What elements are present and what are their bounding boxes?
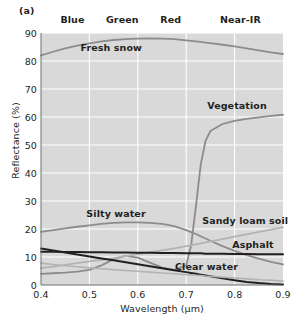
curve-label-silty-water: Silty water xyxy=(86,208,145,219)
curve-label-asphalt: Asphalt xyxy=(232,239,273,250)
curve-label-vegetation: Vegetation xyxy=(207,100,267,111)
spectral-reflectance-figure: (a) BlueGreenRedNear-IR 0102030405060708… xyxy=(0,0,296,323)
curve-label-sandy-loam-soil: Sandy loam soil xyxy=(202,215,288,226)
curve-label-fresh-snow: Fresh snow xyxy=(80,42,141,53)
curve-label-clear-water: Clear water xyxy=(175,261,238,272)
plot-area xyxy=(0,0,296,323)
